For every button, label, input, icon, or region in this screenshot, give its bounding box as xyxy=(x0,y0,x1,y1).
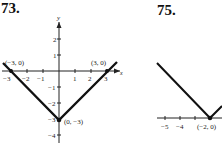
svg-text:2: 2 xyxy=(88,75,92,83)
graph-75: −5−4 (−2, 0) x xyxy=(119,63,222,131)
annotation-neg3-0: (−3, 0) xyxy=(5,59,25,67)
point-3-0 xyxy=(105,69,109,73)
svg-text:−1: −1 xyxy=(37,75,45,83)
annotation-0-neg3: (0, −3) xyxy=(64,118,84,126)
svg-text:−2: −2 xyxy=(48,100,56,108)
y-axis-arrow-icon xyxy=(57,22,62,28)
annotation-3-0: (3, 0) xyxy=(91,59,107,67)
point-neg2-0 xyxy=(208,116,213,121)
svg-text:−4: −4 xyxy=(176,123,184,131)
svg-text:1: 1 xyxy=(73,75,77,83)
x-axis-label-fragment: x xyxy=(119,70,123,76)
annotation-neg2-0: (−2, 0) xyxy=(197,123,217,131)
svg-text:1: 1 xyxy=(53,52,57,60)
point-neg3-0 xyxy=(9,69,13,73)
point-0-neg3 xyxy=(57,118,62,123)
graph-73: y −3−2−1 123 21−1 −2−3−4 (−3, 0) (3, 0) … xyxy=(2,14,120,143)
graph-line-75 xyxy=(157,63,222,118)
svg-text:−5: −5 xyxy=(161,123,169,131)
svg-text:−4: −4 xyxy=(48,132,56,140)
svg-text:2: 2 xyxy=(53,36,57,44)
svg-text:−1: −1 xyxy=(48,84,56,92)
svg-text:3: 3 xyxy=(104,75,108,83)
y-axis-label: y xyxy=(56,14,61,22)
graphs: y −3−2−1 123 21−1 −2−3−4 (−3, 0) (3, 0) … xyxy=(0,0,222,149)
svg-text:−2: −2 xyxy=(22,75,30,83)
svg-text:−3: −3 xyxy=(3,75,11,83)
